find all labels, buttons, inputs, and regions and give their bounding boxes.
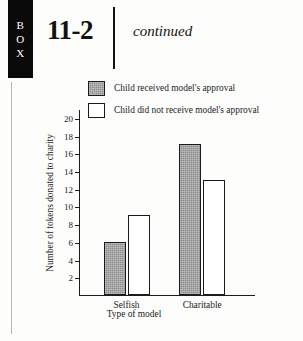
y-tick-label: 18 bbox=[64, 132, 73, 141]
y-tick-label: 14 bbox=[64, 168, 73, 177]
legend-item-approval: Child received model's approval bbox=[88, 78, 259, 98]
y-tick-mark bbox=[75, 225, 79, 226]
legend-swatch-filled bbox=[88, 81, 105, 96]
y-axis-label: Number of tokens donated to charity bbox=[45, 134, 56, 272]
y-tick-label: 16 bbox=[64, 150, 73, 159]
y-axis-line bbox=[79, 110, 80, 296]
y-tick-mark bbox=[75, 137, 79, 138]
y-tick-mark bbox=[75, 207, 79, 208]
bar-selfish-s0 bbox=[104, 242, 126, 295]
y-tick-mark bbox=[75, 154, 79, 155]
y-tick-mark bbox=[75, 172, 79, 173]
clipped-body-text bbox=[22, 330, 298, 341]
y-tick-mark bbox=[75, 278, 79, 279]
y-tick-mark bbox=[75, 190, 79, 191]
x-category-label-charitable: Charitable bbox=[183, 300, 222, 311]
y-tick-label: 10 bbox=[64, 203, 73, 212]
y-tick-mark bbox=[75, 261, 79, 262]
y-tick-label: 8 bbox=[69, 221, 74, 230]
bar-charitable-s0 bbox=[179, 144, 201, 295]
y-tick-mark bbox=[75, 119, 79, 120]
y-tick-label: 4 bbox=[69, 256, 74, 265]
bar-selfish-s1 bbox=[128, 215, 150, 295]
y-tick-label: 6 bbox=[69, 238, 74, 247]
bar-chart-figure: Child received model's approval Child di… bbox=[0, 0, 303, 341]
x-axis-label: Type of model bbox=[107, 309, 162, 320]
y-tick-label: 12 bbox=[64, 185, 73, 194]
plot-area: 2468101214161820SelfishCharitable bbox=[79, 110, 255, 296]
bar-charitable-s1 bbox=[203, 180, 225, 295]
y-tick-mark bbox=[75, 243, 79, 244]
y-tick-label: 20 bbox=[64, 114, 73, 123]
legend-label-approval: Child received model's approval bbox=[114, 83, 235, 94]
y-tick-label: 2 bbox=[69, 274, 74, 283]
